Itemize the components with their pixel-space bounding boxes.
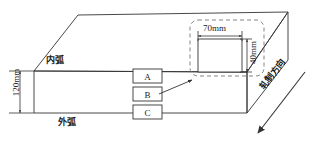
sample-width-label: 70mm xyxy=(203,24,226,33)
sample-label-b: B xyxy=(133,88,162,102)
inner-arc-label: 内弧 xyxy=(46,56,64,65)
thickness-label: 120mm xyxy=(12,62,21,104)
sample-label-a: A xyxy=(133,70,162,84)
detail-sample-rect xyxy=(198,39,242,72)
diagram-canvas: 内弧 外弧 120mm 70mm 40mm 轧制方向 A B C xyxy=(0,0,312,141)
sample-label-c: C xyxy=(133,106,162,120)
callout-leader-arrow xyxy=(159,80,192,94)
outer-arc-label: 外弧 xyxy=(58,118,76,127)
sample-height-label: 40mm xyxy=(249,34,258,72)
